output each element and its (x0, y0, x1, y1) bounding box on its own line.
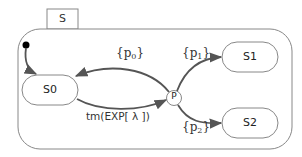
label-p1: {p1} (182, 46, 210, 61)
state-diagram-canvas (0, 0, 302, 157)
label-p0-base: {p (116, 46, 131, 60)
initial-state-dot (23, 42, 30, 49)
label-p1-end: } (202, 46, 210, 60)
state-S2-label: S2 (222, 116, 278, 129)
label-tm-exp-lambda: tm(EXP[ λ ]) (86, 110, 150, 122)
label-p2: {p2} (182, 120, 210, 135)
label-p1-base: {p (182, 46, 197, 60)
state-S1-label: S1 (222, 50, 278, 63)
container-label: S (47, 12, 78, 25)
choice-node-P-label: P (166, 91, 182, 101)
label-p2-base: {p (182, 120, 197, 134)
state-S0-label: S0 (22, 83, 78, 96)
label-p0-end: } (136, 46, 144, 60)
label-p0: {p0} (116, 46, 144, 61)
label-p2-end: } (202, 120, 210, 134)
